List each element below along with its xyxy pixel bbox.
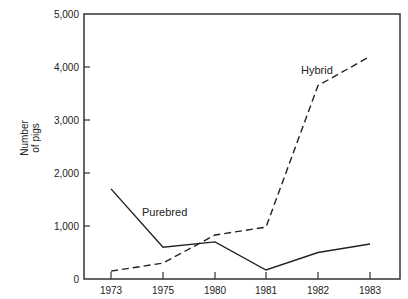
hybrid-line <box>111 56 370 271</box>
y-tick-label: 3,000 <box>54 115 79 126</box>
x-tick-label: 1973 <box>100 285 123 296</box>
x-tick-label: 1982 <box>307 285 330 296</box>
y-axis-title: Number of pigs <box>19 116 41 160</box>
x-axis: 197319751980198119821983 <box>100 272 382 296</box>
hybrid-label: Hybrid <box>301 64 333 76</box>
plot-frame <box>84 14 400 279</box>
line-chart: 01,0002,0003,0004,0005,000 1973197519801… <box>0 0 408 299</box>
y-tick-label: 1,000 <box>54 221 79 232</box>
purebred-line <box>111 189 370 270</box>
y-axis-title-line1: Number <box>19 116 30 160</box>
y-tick-label: 2,000 <box>54 168 79 179</box>
x-tick-label: 1980 <box>204 285 227 296</box>
y-axis-title-line2: of pigs <box>30 116 41 160</box>
y-tick-label: 4,000 <box>54 62 79 73</box>
purebred-label: Purebred <box>142 206 187 218</box>
x-tick-label: 1981 <box>255 285 278 296</box>
x-tick-label: 1975 <box>152 285 175 296</box>
series-lines <box>111 56 370 271</box>
y-tick-label: 5,000 <box>54 9 79 20</box>
x-tick-label: 1983 <box>359 285 382 296</box>
y-tick-label: 0 <box>73 274 79 285</box>
